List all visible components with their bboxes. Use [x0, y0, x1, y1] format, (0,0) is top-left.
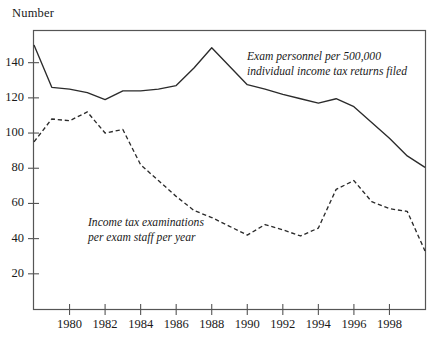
x-axis-tick-label: 1986 [156, 317, 196, 332]
annotation-exam-personnel: Exam personnel per 500,000 individual in… [247, 49, 407, 80]
y-axis-tick-label: 60 [0, 195, 24, 210]
x-axis-tick-label: 1980 [50, 317, 90, 332]
x-axis-tick-label: 1992 [263, 317, 303, 332]
x-axis-tick-label: 1984 [121, 317, 161, 332]
y-axis-tick-label: 100 [0, 125, 24, 140]
annotation-income-tax-examinations: Income tax examinations per exam staff p… [88, 215, 204, 246]
x-axis-tick-label: 1982 [85, 317, 125, 332]
x-axis-tick-label: 1996 [334, 317, 374, 332]
y-axis-tick-label: 40 [0, 231, 24, 246]
y-axis-tick-label: 20 [0, 266, 24, 281]
x-axis-tick-label: 1988 [192, 317, 232, 332]
y-axis-tick-label: 80 [0, 160, 24, 175]
annotation-line: per exam staff per year [88, 230, 204, 245]
y-axis-tick-label: 120 [0, 90, 24, 105]
x-axis-tick-label: 1994 [298, 317, 338, 332]
x-axis-tick-label: 1990 [227, 317, 267, 332]
x-axis-tick-label: 1998 [369, 317, 409, 332]
chart-figure: Number 20406080100120140 198019821984198… [0, 0, 441, 338]
annotation-line: Exam personnel per 500,000 [247, 49, 407, 64]
annotation-line: Income tax examinations [88, 215, 204, 230]
annotation-line: individual income tax returns filed [247, 64, 407, 79]
y-axis-tick-label: 140 [0, 55, 24, 70]
